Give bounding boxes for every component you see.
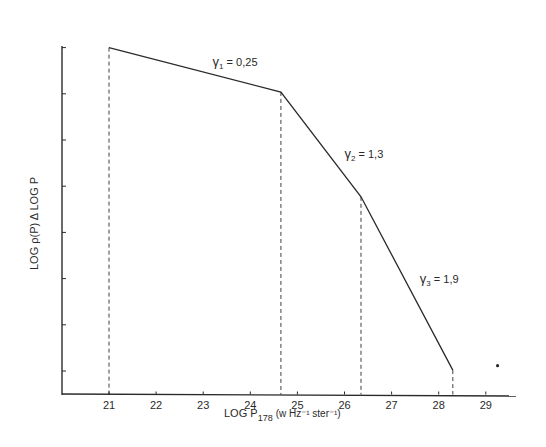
slope-annotation: γ1 = 0,25 xyxy=(213,54,258,71)
stray-dot-marker xyxy=(496,364,499,367)
y-axis-label: LOG ρ(P) Δ LOG P xyxy=(28,177,40,270)
x-tick-label: 27 xyxy=(385,399,397,411)
data-series-line xyxy=(109,48,453,371)
slope-annotation: γ2 = 1,3 xyxy=(345,146,384,163)
dashed-projection-lines xyxy=(109,48,453,395)
x-tick-label: 28 xyxy=(433,399,445,411)
y-axis xyxy=(62,46,66,395)
slope-annotation: γ3 = 1,9 xyxy=(420,271,459,288)
x-tick-label: 29 xyxy=(480,399,492,411)
x-tick-label: 21 xyxy=(103,399,115,411)
slope-annotations: γ1 = 0,25γ2 = 1,3γ3 = 1,9 xyxy=(213,54,459,288)
extra-points xyxy=(496,364,499,367)
luminosity-function-chart: 212223242526272829 γ1 = 0,25γ2 = 1,3γ3 =… xyxy=(0,0,546,447)
x-axis-line xyxy=(62,394,516,396)
x-axis-label: LOG P178(w Hz⁻¹ ster⁻¹) xyxy=(224,407,341,423)
x-tick-label: 23 xyxy=(197,399,209,411)
x-tick-label: 22 xyxy=(150,399,162,411)
